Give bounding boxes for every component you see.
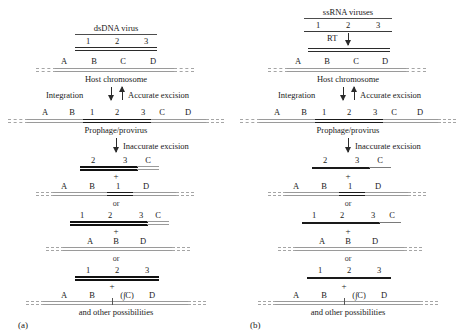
outcome1-viral-label: 3 [355,156,359,165]
outcome2-host-dashed-left [278,247,296,251]
inaccurate-excision-arrow-a [116,138,117,152]
footer-text-a: and other possibilities [79,308,154,317]
outcome3-viral-label: 2 [115,266,119,275]
plus-sign: + [113,227,118,236]
outcome3-viral-product-bold [75,276,159,280]
host-chromosome-line [55,68,175,72]
virus-title-a: dsDNA virus [94,24,139,33]
outcome3-host-dashed-right [420,301,438,305]
panel-caption-a: (a) [18,320,28,330]
dsdna-genome-strand [75,47,157,51]
virus-title-underline-a [75,34,157,35]
deletion-junction-mark [344,298,345,305]
virus-title-underline-b [304,18,392,19]
prophage-segment-label: 3 [141,108,145,117]
outcome1-viral-product-bold [312,167,370,169]
host-chromosome-line [287,68,407,72]
outcome1-viral-product-host-tail [369,167,391,168]
prophage-segment-label: C [159,108,165,117]
or-separator: or [113,255,120,263]
outcome3-viral-product-bold [307,277,391,279]
inaccurate-excision-arrow-b [348,138,349,152]
host-chromosome-label-a: Host chromosome [85,75,147,84]
rt-label-b: RT [327,34,337,43]
outcome3-host-label: D [381,291,387,300]
prophage-segment-label: 2 [347,108,351,117]
outcome2-host-product-line [63,247,173,251]
prophage-segment-label: 2 [115,108,119,117]
host-segment-label: D [382,57,388,66]
outcome2-host-label: D [140,237,146,246]
prophage-segment-label: D [417,108,423,117]
outcome3-viral-label: 2 [347,266,351,275]
host-segment-label: C [120,57,126,66]
ssrna-genome-strand [304,31,392,32]
outcome3-host-label: A [293,291,299,300]
outcome1-residual-viral-segment [107,192,133,196]
prophage-segment-label: A [42,108,48,117]
prophage-label-a: Prophage/provirus [85,126,148,135]
outcome1-host-label: 1 [348,182,352,191]
integration-label-a: Integration [46,91,83,100]
outcome2-viral-product-bold [302,222,380,224]
outcome3-viral-label: 3 [377,266,381,275]
host-segment-label: A [61,57,67,66]
outcome2-viral-product-bold [70,221,148,225]
outcome1-host-label: A [61,182,67,191]
outcome2-viral-label: 2 [340,211,344,220]
outcome3-viral-label: 1 [86,266,90,275]
host-segment-label: B [324,57,330,66]
outcome1-viral-label: C [145,156,151,165]
panel-caption-b: (b) [250,320,261,330]
prophage-segment-label: B [301,108,307,117]
outcome2-host-dashed-right [404,247,422,251]
integrated-provirus-region-b [315,119,383,123]
host-chromosome-dashed-left [36,68,56,72]
or-separator: or [345,255,352,263]
outcome3-host-product-line [275,301,421,305]
outcome3-viral-label: 1 [318,266,322,275]
outcome2-viral-label: 3 [371,211,375,220]
prophage-label-b: Prophage/provirus [317,126,380,135]
outcome2-host-label: B [345,237,351,246]
outcome3-host-label: B [321,291,327,300]
or-separator: or [345,200,352,208]
outcome2-viral-label: C [155,211,161,220]
outcome2-host-label: A [87,237,93,246]
outcome1-host-label: B [89,182,95,191]
virus-segment-label: 1 [316,21,320,30]
plus-sign: + [113,172,118,181]
host-chromosome-dashed-right [406,68,426,72]
outcome1-host-dashed-right [176,192,194,196]
outcome1-host-label: D [375,182,381,191]
outcome3-host-label: B [89,291,95,300]
plus-sign: + [345,227,350,236]
footer-text-b: and other possibilities [311,308,386,317]
outcome1-host-dashed-left [268,192,286,196]
prophage-chromosome-dashed-left [240,119,260,123]
outcome2-viral-label: 1 [80,211,84,220]
outcome2-host-label: A [319,237,325,246]
outcome2-viral-product-host-tail [147,221,169,225]
virus-title-b: ssRNA viruses [323,8,373,17]
outcome3-host-product-line [43,301,189,305]
host-chromosome-dashed-left [268,68,288,72]
outcome1-viral-label: 2 [91,156,95,165]
prophage-segment-label: A [274,108,280,117]
outcome2-viral-label: 3 [139,211,143,220]
outcome1-host-label: D [143,182,149,191]
integration-label-b: Integration [278,91,315,100]
outcome1-viral-product-bold [80,166,138,170]
virus-segment-label: 2 [115,37,119,46]
outcome3-deletion-label: (∫C) [120,291,134,300]
accurate-excision-label-a: Accurate excision [128,91,189,100]
outcome1-host-dashed-right [408,192,426,196]
accurate-excision-label-b: Accurate excision [360,91,421,100]
outcome3-host-label: D [149,291,155,300]
virus-segment-label: 3 [144,37,148,46]
panel-b-ssrna-viruses: ssRNA viruses 1 2 3 RT A B C D Host chro… [232,0,464,334]
outcome2-host-product-line [295,247,405,251]
outcome3-host-dashed-left [258,301,276,305]
virus-segment-label: 1 [86,37,90,46]
inaccurate-excision-label-a: Inaccurate excision [123,142,189,151]
